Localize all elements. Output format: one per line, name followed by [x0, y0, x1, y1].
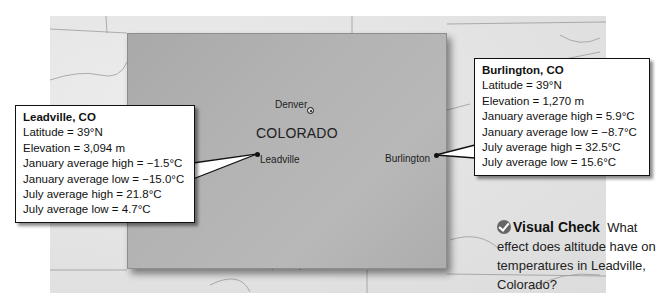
burlington-callout-title: Burlington, CO	[482, 63, 643, 78]
leadville-callout-title: Leadville, CO	[23, 110, 188, 125]
burlington-jan-low: January average low = −8.7°C	[482, 125, 643, 140]
leadville-callout: Leadville, CO Latitude = 39°N Elevation …	[15, 105, 195, 223]
burlington-jul-low: July average low = 15.6°C	[482, 155, 643, 170]
burlington-callout: Burlington, CO Latitude = 39°N Elevation…	[474, 58, 650, 176]
burlington-jan-high: January average high = 5.9°C	[482, 109, 643, 124]
burlington-jul-high: July average high = 32.5°C	[482, 140, 643, 155]
leadville-jul-low: July average low = 4.7°C	[23, 202, 188, 217]
leadville-jan-low: January average low = −15.0°C	[23, 172, 188, 187]
burlington-elevation: Elevation = 1,270 m	[482, 94, 643, 109]
burlington-latitude: Latitude = 39°N	[482, 78, 643, 93]
leadville-jul-high: July average high = 21.8°C	[23, 187, 188, 202]
leadville-latitude: Latitude = 39°N	[23, 125, 188, 140]
leadville-elevation: Elevation = 3,094 m	[23, 141, 188, 156]
leadville-jan-high: January average high = −1.5°C	[23, 156, 188, 171]
